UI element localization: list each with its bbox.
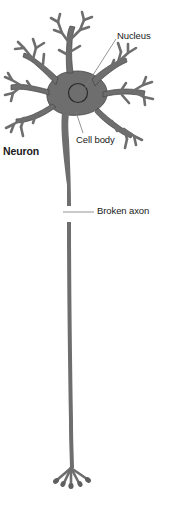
label-cell-body: Cell body <box>76 134 115 145</box>
neuron-illustration <box>0 0 171 522</box>
axon-upper-segment <box>61 113 71 206</box>
axon-shape <box>61 113 74 468</box>
label-nucleus: Nucleus <box>117 30 151 41</box>
neuron-diagram: Nucleus Cell body Neuron Broken axon <box>0 0 171 522</box>
dendrite-upper-right <box>92 58 127 86</box>
dendrite-upper-left <box>23 53 58 85</box>
label-broken-axon: Broken axon <box>97 205 149 216</box>
axon-lower-segment <box>67 222 74 468</box>
label-neuron: Neuron <box>3 146 39 157</box>
